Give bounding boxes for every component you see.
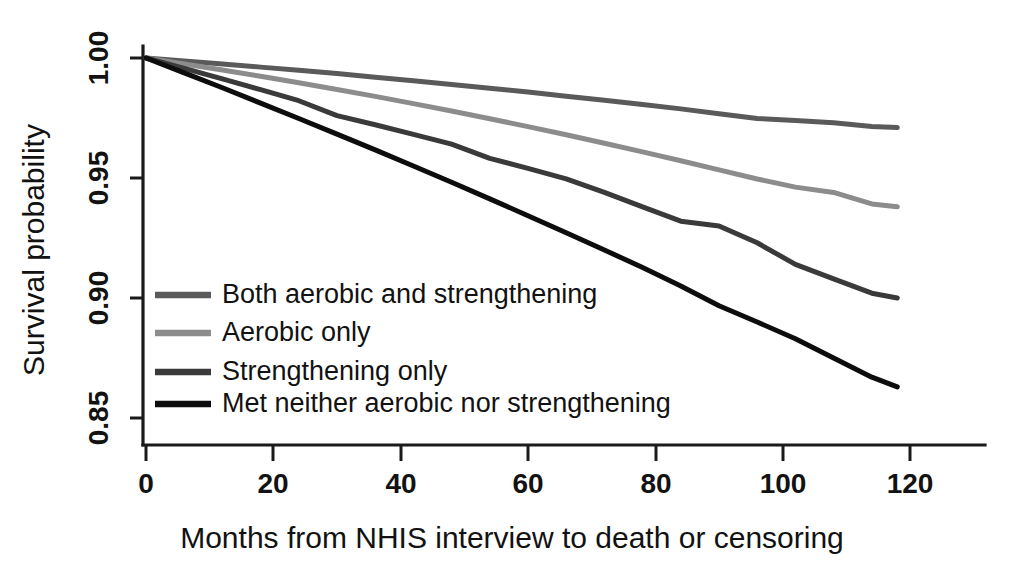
y-axis-title: Survival probability (17, 124, 50, 376)
y-tick-label: 0.90 (83, 271, 114, 326)
y-tick-label: 0.85 (83, 391, 114, 446)
x-axis-title: Months from NHIS interview to death or c… (180, 521, 844, 554)
legend-label-2: Strengthening only (222, 356, 448, 386)
series-line-0 (146, 58, 897, 128)
x-axis-ticks (146, 445, 910, 461)
x-tick-label: 0 (138, 468, 154, 499)
x-tick-label: 60 (512, 468, 543, 499)
kaplan-meier-plot: Survival probability 1.00 0.95 0.90 0.85 (0, 0, 1013, 579)
y-tick-label: 1.00 (83, 31, 114, 86)
x-tick-label: 40 (385, 468, 416, 499)
y-axis-ticks (130, 58, 143, 418)
survival-curve-figure: Survival probability 1.00 0.95 0.90 0.85 (0, 0, 1013, 579)
legend-label-1: Aerobic only (222, 317, 371, 347)
series-line-1 (146, 58, 897, 207)
y-tick-label: 0.95 (83, 151, 114, 206)
chart-legend: Both aerobic and strengtheningAerobic on… (155, 279, 671, 418)
x-tick-label: 80 (640, 468, 671, 499)
x-tick-label: 20 (257, 468, 288, 499)
series-line-2 (146, 58, 897, 298)
y-axis-tick-labels: 1.00 0.95 0.90 0.85 (83, 31, 114, 446)
legend-label-0: Both aerobic and strengthening (222, 279, 597, 309)
x-axis-tick-labels: 0 20 40 60 80 100 120 (138, 468, 933, 499)
x-tick-label: 120 (887, 468, 934, 499)
x-tick-label: 100 (760, 468, 807, 499)
legend-label-3: Met neither aerobic nor strengthening (222, 388, 671, 418)
